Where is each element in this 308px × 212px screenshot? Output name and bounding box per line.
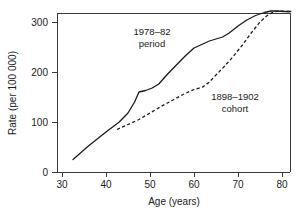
x-axis-ticks <box>62 172 282 177</box>
x-tick-label-60: 60 <box>188 179 200 190</box>
x-tick-label-40: 40 <box>100 179 112 190</box>
x-tick-label-30: 30 <box>56 179 68 190</box>
y-tick-label-300: 300 <box>31 17 48 28</box>
annotation-cohort-line2: cohort <box>222 103 249 114</box>
y-tick-label-100: 100 <box>31 117 48 128</box>
series-period-1978-82 <box>73 11 291 160</box>
chart-figure: 0 100 200 300 30 40 50 60 70 80 Age (yea… <box>0 0 308 212</box>
x-tick-label-50: 50 <box>144 179 156 190</box>
x-tick-label-70: 70 <box>232 179 244 190</box>
y-axis-ticks <box>52 22 57 172</box>
x-axis-title: Age (years) <box>148 196 200 207</box>
annotation-period-line1: 1978–82 <box>134 26 171 37</box>
annotation-period: 1978–82 period <box>134 26 171 49</box>
y-tick-label-0: 0 <box>42 167 48 178</box>
x-tick-label-80: 80 <box>276 179 288 190</box>
annotation-period-line2: period <box>139 38 165 49</box>
y-axis-title: Rate (per 100 000) <box>7 51 18 135</box>
line-chart-svg: 0 100 200 300 30 40 50 60 70 80 Age (yea… <box>0 0 308 212</box>
annotation-cohort: 1898–1902 cohort <box>211 91 259 114</box>
y-tick-label-200: 200 <box>31 67 48 78</box>
annotation-cohort-line1: 1898–1902 <box>211 91 259 102</box>
